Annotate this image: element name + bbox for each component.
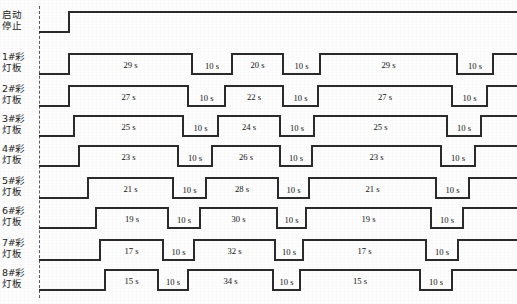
lamp-board-5-segment-1: 21 s (123, 184, 137, 194)
lamp-board-3-segment-1: 25 s (121, 122, 135, 132)
lamp-board-5-segment-6: 10 s (445, 185, 459, 195)
lamp-board-3-segment-2: 10 s (193, 123, 207, 133)
signal-label-lamp-board-2: 2#彩灯板 (2, 84, 36, 105)
signal-label-lamp-board-8: 8#彩灯板 (2, 268, 36, 289)
signal-label-line2: 灯板 (2, 125, 36, 136)
lamp-board-4-segment-2: 10 s (188, 153, 202, 163)
lamp-board-7-segment-2: 10 s (171, 247, 185, 257)
lamp-board-5-segment-5: 21 s (365, 184, 379, 194)
lamp-board-6-segment-3: 30 s (231, 214, 245, 224)
waveform-lamp-board-8 (39, 270, 517, 290)
lamp-board-5-segment-4: 10 s (286, 185, 300, 195)
signal-label-lamp-board-4: 4#彩灯板 (2, 144, 36, 165)
lamp-board-1-segment-5: 29 s (381, 60, 395, 70)
waveform-lamp-board-1 (39, 54, 517, 74)
lamp-board-6-segment-1: 19 s (125, 214, 139, 224)
signal-label-start-stop-signal: 启动停止 (2, 10, 36, 31)
signal-label-lamp-board-1: 1#彩灯板 (2, 52, 36, 73)
lamp-board-4-segment-4: 10 s (289, 153, 303, 163)
lamp-board-2-segment-5: 27 s (378, 92, 392, 102)
signal-label-line1: 4#彩 (2, 144, 36, 155)
lamp-board-6-segment-2: 10 s (177, 215, 191, 225)
waveform-lamp-board-4 (39, 146, 517, 166)
lamp-board-8-segment-2: 10 s (166, 277, 180, 287)
signal-label-line2: 灯板 (2, 155, 36, 166)
lamp-board-6-segment-6: 10 s (440, 215, 454, 225)
lamp-board-8-segment-4: 10 s (279, 277, 293, 287)
lamp-board-1-segment-3: 20 s (250, 60, 264, 70)
lamp-board-3-segment-6: 10 s (457, 123, 471, 133)
lamp-board-8-segment-1: 15 s (124, 276, 138, 286)
signal-label-line1: 6#彩 (2, 206, 36, 217)
lamp-board-1-segment-1: 29 s (123, 60, 137, 70)
lamp-board-3-segment-5: 25 s (373, 122, 387, 132)
timing-diagram: 29 s10 s20 s10 s29 s10 s27 s10 s22 s10 s… (0, 0, 517, 304)
signal-label-line1: 2#彩 (2, 84, 36, 95)
lamp-board-7-segment-3: 32 s (227, 246, 241, 256)
signal-label-lamp-board-3: 3#彩灯板 (2, 114, 36, 135)
waveform-canvas (0, 0, 517, 304)
lamp-board-5-segment-3: 28 s (235, 184, 249, 194)
lamp-board-2-segment-3: 22 s (247, 92, 261, 102)
waveform-lamp-board-2 (39, 86, 517, 106)
lamp-board-2-segment-2: 10 s (199, 93, 213, 103)
lamp-board-4-segment-3: 26 s (239, 152, 253, 162)
signal-label-line1: 1#彩 (2, 52, 36, 63)
lamp-board-4-segment-5: 23 s (369, 152, 383, 162)
lamp-board-8-segment-5: 15 s (353, 276, 367, 286)
lamp-board-8-segment-6: 10 s (429, 277, 443, 287)
lamp-board-6-segment-4: 10 s (284, 215, 298, 225)
lamp-board-4-segment-6: 10 s (451, 153, 465, 163)
lamp-board-2-segment-1: 27 s (121, 92, 135, 102)
lamp-board-6-segment-5: 19 s (361, 214, 375, 224)
signal-label-line1: 8#彩 (2, 268, 36, 279)
signal-label-line2: 停止 (2, 21, 36, 32)
signal-label-line2: 灯板 (2, 279, 36, 290)
lamp-board-3-segment-4: 10 s (290, 123, 304, 133)
signal-label-line2: 灯板 (2, 217, 36, 228)
lamp-board-8-segment-3: 34 s (223, 276, 237, 286)
lamp-board-4-segment-1: 23 s (121, 152, 135, 162)
signal-label-lamp-board-5: 5#彩灯板 (2, 176, 36, 197)
waveform-start-stop-signal (39, 12, 517, 32)
lamp-board-7-segment-4: 10 s (282, 247, 296, 257)
lamp-board-1-segment-4: 10 s (294, 61, 308, 71)
waveform-lamp-board-3 (39, 116, 517, 136)
signal-label-lamp-board-6: 6#彩灯板 (2, 206, 36, 227)
lamp-board-7-segment-6: 10 s (435, 247, 449, 257)
signal-label-lamp-board-7: 7#彩灯板 (2, 238, 36, 259)
signal-label-line2: 灯板 (2, 249, 36, 260)
lamp-board-5-segment-2: 10 s (182, 185, 196, 195)
signal-label-line1: 7#彩 (2, 238, 36, 249)
lamp-board-1-segment-6: 10 s (468, 61, 482, 71)
signal-label-line1: 5#彩 (2, 176, 36, 187)
lamp-board-7-segment-5: 17 s (357, 246, 371, 256)
lamp-board-3-segment-3: 24 s (242, 122, 256, 132)
signal-label-line2: 灯板 (2, 63, 36, 74)
signal-label-line1: 3#彩 (2, 114, 36, 125)
signal-label-line2: 灯板 (2, 187, 36, 198)
lamp-board-2-segment-4: 10 s (293, 93, 307, 103)
lamp-board-2-segment-6: 10 s (462, 93, 476, 103)
lamp-board-1-segment-2: 10 s (205, 61, 219, 71)
signal-label-line1: 启动 (2, 10, 36, 21)
lamp-board-7-segment-1: 17 s (124, 246, 138, 256)
signal-label-line2: 灯板 (2, 95, 36, 106)
